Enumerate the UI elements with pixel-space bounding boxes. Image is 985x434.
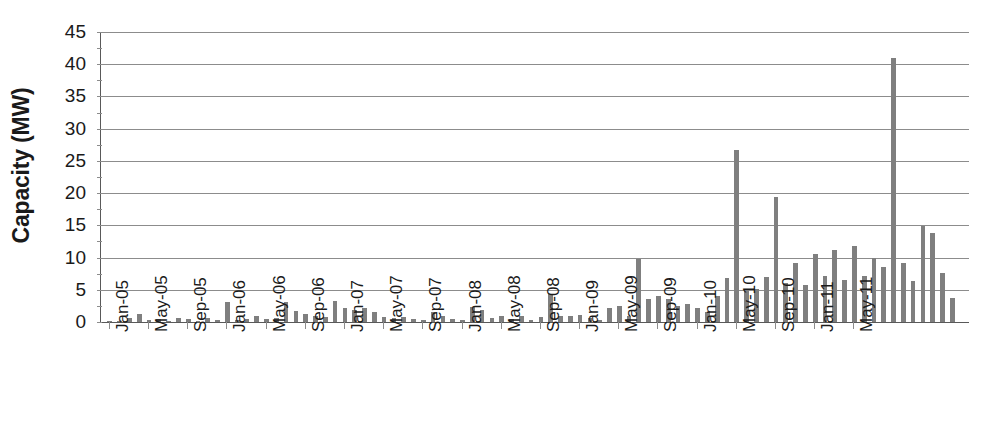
x-axis-tick-mark — [657, 322, 658, 329]
x-axis-tick-label: Sep-10 — [765, 330, 785, 430]
x-axis-tick-label: Sep-08 — [530, 330, 550, 430]
x-axis-tick-mark — [814, 322, 815, 329]
bar — [764, 277, 769, 322]
x-axis-tick-mark — [853, 322, 854, 329]
x-axis-tick-label: Jan-05 — [99, 330, 119, 430]
bar — [930, 233, 935, 322]
y-axis-tick-label: 5 — [75, 279, 86, 301]
bar — [137, 314, 142, 322]
x-axis-tick-label: Jan-06 — [216, 330, 236, 430]
x-axis-tick-label: Sep-07 — [412, 330, 432, 430]
x-axis-tick-label: Sep-09 — [647, 330, 667, 430]
x-axis-tick-label-text: May-09 — [622, 275, 642, 332]
bar — [803, 285, 808, 322]
bar — [881, 267, 886, 322]
y-axis-tick-label: 40 — [65, 53, 86, 75]
x-axis-tick-mark — [305, 322, 306, 329]
x-axis-tick-mark — [344, 322, 345, 329]
bar — [607, 308, 612, 322]
x-axis-tick-label-text: May-10 — [740, 275, 760, 332]
x-axis-tick-label-text: May-05 — [152, 275, 172, 332]
x-axis-tick-label-text: May-08 — [505, 275, 525, 332]
x-axis-tick-mark — [266, 322, 267, 329]
x-axis-tick-mark — [540, 322, 541, 329]
y-axis-tick-label: 15 — [65, 214, 86, 236]
x-axis-tick-label: Jan-11 — [804, 330, 824, 430]
y-axis-tick-label: 45 — [65, 21, 86, 43]
x-axis-tick-label-text: Sep-09 — [661, 277, 681, 332]
x-axis-tick-label: May-11 — [843, 330, 863, 430]
x-axis-tick-mark — [462, 322, 463, 329]
x-axis-tick-label-text: Sep-08 — [544, 277, 564, 332]
x-axis-tick-labels: Jan-05May-05Sep-05Jan-06May-06Sep-06Jan-… — [100, 330, 968, 434]
x-axis-tick-label: Sep-05 — [177, 330, 197, 430]
x-axis-tick-label: May-09 — [608, 330, 628, 430]
x-axis-tick-label-text: May-06 — [270, 275, 290, 332]
x-axis-tick-mark — [187, 322, 188, 329]
x-axis-tick-mark — [775, 322, 776, 329]
bar — [343, 308, 348, 322]
x-axis-tick-label-text: Jan-06 — [230, 280, 250, 332]
x-axis-tick-label-text: Jan-05 — [113, 280, 133, 332]
x-axis-tick-mark — [422, 322, 423, 329]
y-axis-tick-label: 30 — [65, 118, 86, 140]
y-axis-tick-label: 10 — [65, 247, 86, 269]
x-axis-tick-label-text: Sep-10 — [779, 277, 799, 332]
x-axis-tick-label-text: Jan-09 — [583, 280, 603, 332]
y-axis-tick-label: 0 — [75, 311, 86, 333]
x-axis-tick-label-text: Sep-07 — [426, 277, 446, 332]
x-axis-tick-mark — [148, 322, 149, 329]
x-axis-tick-label: Jan-08 — [452, 330, 472, 430]
x-axis-tick-label: Jan-07 — [334, 330, 354, 430]
bar — [294, 311, 299, 322]
plot-area — [100, 32, 969, 322]
bar — [852, 246, 857, 322]
x-axis-tick-mark — [109, 322, 110, 329]
bar — [911, 281, 916, 322]
bar — [303, 314, 308, 322]
bar — [813, 254, 818, 322]
bar — [891, 58, 896, 322]
bar — [695, 308, 700, 322]
bar — [734, 150, 739, 322]
y-axis-title: Capacity (MW) — [0, 0, 44, 330]
bar — [725, 278, 730, 322]
bar — [372, 312, 377, 322]
bar — [225, 302, 230, 322]
x-axis-tick-label-text: May-11 — [857, 277, 877, 332]
y-axis-title-text: Capacity (MW) — [9, 87, 36, 243]
y-axis-tick-label: 35 — [65, 85, 86, 107]
x-axis-tick-label-text: Jan-08 — [466, 280, 486, 332]
bar-series — [101, 32, 969, 322]
bar — [901, 263, 906, 322]
x-axis-tick-label: May-07 — [373, 330, 393, 430]
y-axis-tick-label: 25 — [65, 150, 86, 172]
x-axis-tick-label: May-05 — [138, 330, 158, 430]
y-axis-tick-label: 20 — [65, 182, 86, 204]
x-axis-tick-label: May-06 — [256, 330, 276, 430]
x-axis-tick-mark — [501, 322, 502, 329]
bar — [921, 226, 926, 322]
bar — [646, 299, 651, 322]
x-axis-tick-mark — [736, 322, 737, 329]
x-axis-tick-mark — [226, 322, 227, 329]
x-axis-tick-label: Jan-10 — [687, 330, 707, 430]
bar — [333, 301, 338, 322]
x-axis-tick-label: May-10 — [726, 330, 746, 430]
y-axis-tick-labels: 051015202530354045 — [44, 0, 94, 340]
x-axis-tick-label: May-08 — [491, 330, 511, 430]
x-axis-tick-label: Jan-09 — [569, 330, 589, 430]
x-axis-tick-mark — [697, 322, 698, 329]
bar — [774, 197, 779, 322]
x-axis-tick-label-text: Jan-10 — [701, 280, 721, 332]
bar — [685, 304, 690, 322]
x-axis-tick-mark — [618, 322, 619, 329]
x-axis-tick-label-text: May-07 — [387, 275, 407, 332]
x-axis-tick-label-text: Sep-06 — [309, 277, 329, 332]
capacity-bar-chart: Capacity (MW) 051015202530354045 Jan-05M… — [0, 0, 985, 434]
bar — [578, 315, 583, 322]
bar — [617, 306, 622, 322]
x-axis-tick-label: Sep-06 — [295, 330, 315, 430]
bar — [950, 298, 955, 322]
bar — [842, 280, 847, 322]
